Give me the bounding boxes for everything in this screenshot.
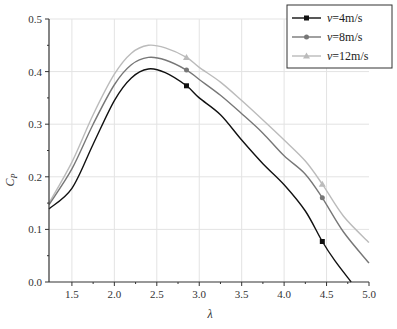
circle-marker-icon	[184, 68, 189, 73]
y-tick-label: 0.2	[28, 171, 42, 183]
y-axis-label: CP	[3, 173, 19, 186]
legend: v=4m/sv=8m/sv=12m/s	[287, 5, 392, 68]
triangle-marker-icon	[183, 54, 190, 60]
legend-square-icon	[304, 16, 309, 21]
y-tick-label: 0.0	[28, 276, 42, 288]
x-tick-label: 3.5	[235, 288, 249, 300]
square-marker-icon	[184, 83, 189, 88]
y-tick-label: 0.4	[28, 66, 42, 78]
legend-label: v=12m/s	[327, 49, 369, 63]
series-line	[49, 57, 369, 263]
x-tick-label: 5.0	[362, 288, 376, 300]
square-marker-icon	[320, 239, 325, 244]
circle-marker-icon	[320, 195, 325, 200]
x-tick-label: 4.0	[277, 288, 291, 300]
y-tick-label: 0.5	[28, 13, 42, 25]
legend-label: v=8m/s	[327, 30, 363, 44]
x-tick-label: 2.5	[150, 288, 164, 300]
series-line	[49, 45, 369, 243]
x-tick-label: 3.0	[192, 288, 206, 300]
legend-circle-icon	[304, 35, 309, 40]
cp-lambda-chart: 0.00.10.20.30.40.51.52.02.53.03.54.04.55…	[0, 0, 397, 329]
legend-label: v=4m/s	[327, 11, 363, 25]
y-tick-label: 0.1	[28, 223, 42, 235]
y-tick-label: 0.3	[28, 118, 42, 130]
x-tick-label: 1.5	[65, 288, 79, 300]
x-axis-label: λ	[206, 307, 212, 321]
x-tick-label: 2.0	[107, 288, 121, 300]
x-tick-label: 4.5	[320, 288, 334, 300]
data-series	[49, 45, 369, 282]
